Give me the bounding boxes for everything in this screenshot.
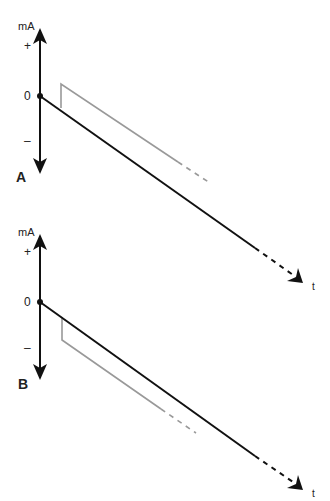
x-axis-label: t <box>312 488 315 499</box>
arrow-right-icon <box>287 475 303 490</box>
offset-line-b-dashed <box>161 409 196 433</box>
zero-label: 0 <box>24 295 31 309</box>
arrow-right-icon <box>287 268 303 283</box>
panel-b: mA + 0 – B t <box>18 226 315 499</box>
panel-a: mA + 0 – A t <box>16 20 315 292</box>
offset-line-a-dashed <box>178 162 210 183</box>
main-line-a-dashed <box>255 248 296 277</box>
y-axis-label: mA <box>18 226 35 238</box>
plus-label: + <box>24 245 31 259</box>
main-line-b <box>40 302 255 456</box>
diagram: mA + 0 – A t mA + 0 – B t <box>0 0 330 501</box>
x-axis-label: t <box>312 281 315 292</box>
panel-label: A <box>16 169 26 185</box>
y-axis-label: mA <box>18 20 35 32</box>
main-line-a <box>40 96 255 248</box>
minus-label: – <box>24 341 31 355</box>
plus-label: + <box>24 39 31 53</box>
panel-label: B <box>18 376 28 392</box>
offset-line-b <box>62 317 161 409</box>
zero-label: 0 <box>24 89 31 103</box>
minus-label: – <box>24 134 31 148</box>
main-line-b-dashed <box>255 456 296 484</box>
